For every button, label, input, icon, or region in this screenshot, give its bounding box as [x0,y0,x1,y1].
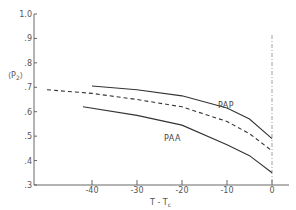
y-tick-label: .7 [24,83,32,92]
x-tick-label: 0 [269,186,274,195]
y-tick-label: .6 [24,108,32,117]
y-tick-label: .8 [24,59,32,68]
series-label-pap: PAP [218,101,234,110]
y-tick-label: .5 [24,132,32,141]
y-tick-label: .4 [24,157,32,166]
x-tick-label: -20 [175,186,188,195]
x-tick-label: -40 [85,186,98,195]
x-tick-label: -30 [130,186,143,195]
y-tick-label: .3 [24,181,32,190]
y-axis-title: ⟨P2⟩ [8,71,23,81]
series-label-paa: PAA [164,134,181,143]
x-ticks: -40-30-20-100 [85,180,274,195]
chart: 1.0.9.8.7.6.5.4.3 -40-30-20-100 ⟨P2⟩ T -… [0,0,296,210]
x-axis-title: T - Tc [149,198,171,208]
y-tick-label: 1.0 [19,10,32,19]
series-group [47,86,272,173]
y-tick-label: .9 [24,34,32,43]
x-tick-label: -10 [220,186,233,195]
